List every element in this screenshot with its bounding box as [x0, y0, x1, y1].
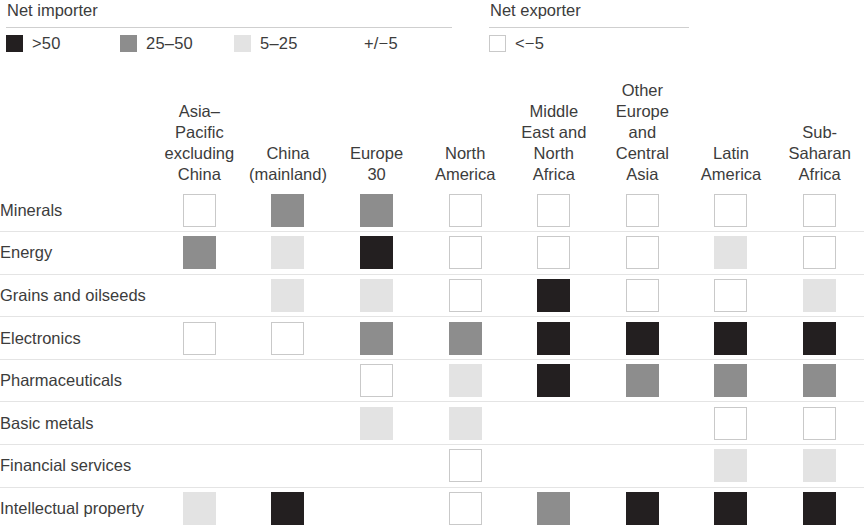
- matrix-cell: [598, 402, 687, 445]
- cell-swatch-pm5: [537, 407, 570, 440]
- matrix-cell: [332, 317, 421, 360]
- row-label-2: Grains and oilseeds: [0, 274, 155, 317]
- column-header-0: Asia–PacificexcludingChina: [155, 62, 244, 189]
- cell-swatch-v25_50: [360, 194, 393, 227]
- matrix-cell: [244, 317, 333, 360]
- matrix-cell: [421, 359, 510, 402]
- matrix-cell: [775, 359, 864, 402]
- column-header-line: America: [687, 164, 776, 185]
- matrix-cell: [775, 487, 864, 530]
- matrix-cell: [155, 274, 244, 317]
- cell-swatch-v25_50: [360, 322, 393, 355]
- legend-divider-importer: [6, 27, 452, 28]
- legend-label-plusminus5: +/−5: [364, 34, 398, 53]
- matrix-cell: [775, 402, 864, 445]
- matrix-cell: [687, 402, 776, 445]
- swatch-plusminus5-icon: [338, 35, 355, 52]
- legend-items-exporter: <−5: [489, 34, 689, 53]
- matrix-cell: [244, 402, 333, 445]
- cell-swatch-lt_minus5: [537, 236, 570, 269]
- matrix-cell: [509, 274, 598, 317]
- column-header-2: Europe30: [332, 62, 421, 189]
- cell-swatch-lt_minus5: [449, 194, 482, 227]
- swatch-25-50-icon: [120, 35, 137, 52]
- matrix-cell: [598, 274, 687, 317]
- column-header-line: Europe: [332, 143, 421, 164]
- matrix-cell: [775, 445, 864, 488]
- legend-item-5-25: 5–25: [234, 34, 338, 53]
- legend: Net importer >50 25–50 5–25 +/−5 Net exp…: [0, 0, 864, 62]
- column-header-line: Latin: [687, 143, 776, 164]
- cell-swatch-lt_minus5: [626, 194, 659, 227]
- cell-swatch-lt_minus5: [183, 322, 216, 355]
- row-label-0: Minerals: [0, 189, 155, 232]
- cell-swatch-pm5: [183, 364, 216, 397]
- swatch-gt50-icon: [6, 35, 23, 52]
- cell-swatch-v25_50: [626, 364, 659, 397]
- matrix-cell: [155, 359, 244, 402]
- row-label-6: Financial services: [0, 445, 155, 488]
- legend-title-net-importer: Net importer: [6, 0, 452, 20]
- cell-swatch-v5_25: [183, 492, 216, 525]
- matrix-cell: [598, 232, 687, 275]
- cell-swatch-lt_minus5: [449, 492, 482, 525]
- matrix-cell: [244, 274, 333, 317]
- matrix-cell: [332, 189, 421, 232]
- cell-swatch-lt_minus5: [803, 407, 836, 440]
- column-header-5: OtherEuropeandCentralAsia: [598, 62, 687, 189]
- matrix-header-row: Asia–PacificexcludingChinaChina(mainland…: [0, 62, 864, 189]
- matrix-cell: [421, 445, 510, 488]
- column-header-3: NorthAmerica: [421, 62, 510, 189]
- matrix-cell: [509, 445, 598, 488]
- column-header-line: East and: [509, 122, 598, 143]
- matrix-cell: [598, 359, 687, 402]
- cell-swatch-v5_25: [271, 236, 304, 269]
- legend-item-lt-minus5: <−5: [489, 34, 544, 53]
- matrix-row: Minerals: [0, 189, 864, 232]
- matrix-cell: [244, 359, 333, 402]
- row-label-5: Basic metals: [0, 402, 155, 445]
- matrix-cell: [155, 445, 244, 488]
- row-label-4: Pharmaceuticals: [0, 359, 155, 402]
- cell-swatch-lt_minus5: [449, 236, 482, 269]
- cell-swatch-pm5: [626, 407, 659, 440]
- matrix-cell: [244, 487, 333, 530]
- matrix-cell: [155, 189, 244, 232]
- matrix-row: Pharmaceuticals: [0, 359, 864, 402]
- column-header-line: Other: [598, 80, 687, 101]
- cell-swatch-pm5: [360, 492, 393, 525]
- column-header-line: North: [421, 143, 510, 164]
- matrix-cell: [421, 232, 510, 275]
- column-header-line: Saharan: [775, 143, 864, 164]
- cell-swatch-gt50: [626, 322, 659, 355]
- matrix-table: Asia–PacificexcludingChinaChina(mainland…: [0, 62, 864, 530]
- matrix-cell: [598, 487, 687, 530]
- matrix-cell: [598, 445, 687, 488]
- legend-label-5-25: 5–25: [260, 34, 298, 53]
- column-header-1: China(mainland): [244, 62, 333, 189]
- matrix-cell: [509, 402, 598, 445]
- cell-swatch-pm5: [183, 279, 216, 312]
- cell-swatch-lt_minus5: [626, 279, 659, 312]
- matrix-cell: [244, 232, 333, 275]
- legend-group-net-importer: Net importer >50 25–50 5–25 +/−5: [6, 0, 452, 53]
- swatch-lt-minus5-icon: [489, 35, 506, 52]
- cell-swatch-lt_minus5: [803, 236, 836, 269]
- cell-swatch-lt_minus5: [714, 279, 747, 312]
- matrix-cell: [155, 402, 244, 445]
- matrix-header: Asia–PacificexcludingChinaChina(mainland…: [0, 62, 864, 189]
- matrix-cell: [244, 445, 333, 488]
- row-label-1: Energy: [0, 232, 155, 275]
- cell-swatch-v25_50: [803, 364, 836, 397]
- legend-items-importer: >50 25–50 5–25 +/−5: [6, 34, 452, 53]
- cell-swatch-v5_25: [803, 449, 836, 482]
- cell-swatch-pm5: [271, 449, 304, 482]
- cell-swatch-lt_minus5: [271, 322, 304, 355]
- matrix-cell: [155, 232, 244, 275]
- matrix-cell: [332, 487, 421, 530]
- cell-swatch-v25_50: [537, 492, 570, 525]
- legend-item-25-50: 25–50: [120, 34, 234, 53]
- matrix-cell: [598, 189, 687, 232]
- cell-swatch-v25_50: [714, 364, 747, 397]
- cell-swatch-v5_25: [714, 236, 747, 269]
